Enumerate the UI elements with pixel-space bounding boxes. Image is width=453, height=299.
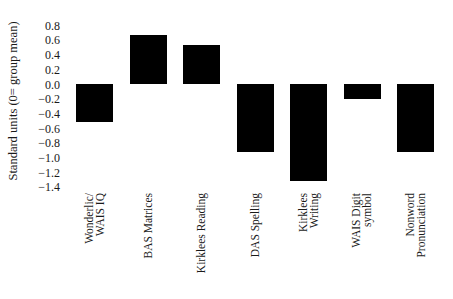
- y-tick-label: −0.4: [38, 108, 60, 120]
- y-tick-label: −1.2: [38, 167, 60, 179]
- x-tick-label-line: Writing: [309, 193, 320, 232]
- x-tick-label-line: Pronunciation: [416, 193, 427, 258]
- bar-chart: Standard units (0= group mean) 0.80.60.4…: [0, 0, 453, 299]
- y-tick-label: 0.0: [45, 79, 60, 91]
- y-tick-label: −0.2: [38, 93, 60, 105]
- y-tick-label: −0.6: [38, 123, 60, 135]
- x-tick-label-line: Wonderlic/: [84, 193, 95, 244]
- x-tick-label-line: DAS Spelling: [250, 193, 261, 257]
- y-tick-label: 0.2: [45, 64, 60, 76]
- bar: [290, 84, 327, 181]
- y-tick-label: −1.0: [38, 152, 60, 164]
- x-tick-label-line: Kirklees: [298, 193, 309, 232]
- y-tick-label: 0.4: [45, 49, 60, 61]
- x-tick-label-line: Nonword: [405, 193, 416, 258]
- x-tick-label-line: WAIS IQ: [95, 193, 106, 244]
- x-tick-label-line: BAS Matrices: [143, 193, 154, 258]
- bar: [130, 35, 167, 84]
- bar: [183, 45, 220, 84]
- bar: [397, 84, 434, 152]
- y-tick-label: 0.8: [45, 20, 60, 32]
- y-tick-label: −1.4: [38, 181, 60, 193]
- x-tick-label-line: Kirklees Reading: [196, 193, 207, 273]
- y-axis-label: Standard units (0= group mean): [6, 11, 20, 191]
- x-tick-label-line: symbol: [362, 193, 373, 248]
- bar: [76, 84, 113, 122]
- y-tick-label: 0.6: [45, 34, 60, 46]
- bar: [237, 84, 274, 152]
- y-tick-label: −0.8: [38, 137, 60, 149]
- bar: [344, 84, 381, 99]
